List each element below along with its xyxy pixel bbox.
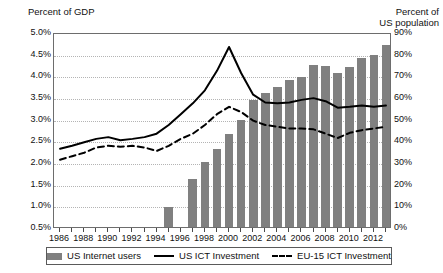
legend-swatch-solid-line-icon xyxy=(154,255,174,257)
right-axis-tick-label: 50% xyxy=(394,115,434,124)
x-axis-tick xyxy=(180,228,181,232)
x-axis-tick xyxy=(288,228,289,232)
legend-label: EU-15 ICT Investment xyxy=(297,251,391,261)
legend-item[interactable]: US ICT Investment xyxy=(154,251,259,261)
x-axis-tick xyxy=(300,228,301,232)
x-axis-tick xyxy=(264,228,265,232)
x-axis-tick xyxy=(156,228,157,232)
legend-label: US ICT Investment xyxy=(179,251,259,261)
left-axis-tick-label: 2.5% xyxy=(11,136,51,145)
x-axis xyxy=(53,228,391,229)
x-axis-tick xyxy=(361,228,362,232)
x-axis-tick xyxy=(313,228,314,232)
right-axis-tick-label: 20% xyxy=(394,180,434,189)
x-axis-tick xyxy=(385,228,386,232)
left-axis-tick-label: 5.0% xyxy=(11,28,51,37)
right-axis-tick-label: 60% xyxy=(394,93,434,102)
right-axis-tick-label: 70% xyxy=(394,71,434,80)
x-axis-tick xyxy=(71,228,72,232)
x-axis-tick xyxy=(168,228,169,232)
line-series-layer xyxy=(54,34,391,228)
chart-container: Percent of GDP Percent of US population … xyxy=(0,0,443,273)
left-axis-tick-label: 3.5% xyxy=(11,93,51,102)
x-axis-tick xyxy=(373,228,374,232)
left-axis-tick-label: 0.5% xyxy=(11,223,51,232)
x-axis-tick xyxy=(192,228,193,232)
line-us-ict-investment xyxy=(60,47,386,149)
x-axis-tick xyxy=(204,228,205,232)
plot-area xyxy=(53,33,391,228)
legend-item[interactable]: EU-15 ICT Investment xyxy=(272,251,391,261)
x-axis-tick xyxy=(95,228,96,232)
right-axis-tick-label: 40% xyxy=(394,136,434,145)
x-axis-tick xyxy=(107,228,108,232)
left-axis-tick-label: 4.5% xyxy=(11,50,51,59)
left-axis-tick-label: 4.0% xyxy=(11,71,51,80)
right-axis-tick-label: 0% xyxy=(394,223,434,232)
left-axis-tick-label: 1.5% xyxy=(11,180,51,189)
right-axis-tick-label: 90% xyxy=(394,28,434,37)
x-axis-tick xyxy=(325,228,326,232)
legend-swatch-dashed-line-icon xyxy=(272,255,292,257)
chart-legend: US Internet usersUS ICT InvestmentEU-15 … xyxy=(46,247,392,265)
right-axis-tick-label: 10% xyxy=(394,201,434,210)
x-axis-tick xyxy=(216,228,217,232)
right-axis-tick-label: 80% xyxy=(394,50,434,59)
right-axis-title: Percent of US population xyxy=(379,6,439,28)
x-axis-tick xyxy=(59,228,60,232)
x-axis-tick xyxy=(228,228,229,232)
x-axis-tick-label: 2012 xyxy=(356,233,390,243)
legend-item[interactable]: US Internet users xyxy=(47,251,141,261)
left-axis-tick-label: 3.0% xyxy=(11,115,51,124)
left-axis-tick-label: 1.0% xyxy=(11,201,51,210)
left-axis-title: Percent of GDP xyxy=(28,6,95,17)
left-axis-tick-label: 2.0% xyxy=(11,158,51,167)
x-axis-tick xyxy=(337,228,338,232)
x-axis-tick xyxy=(83,228,84,232)
x-axis-tick xyxy=(349,228,350,232)
legend-swatch-bar-swatch-icon xyxy=(47,253,62,260)
legend-label: US Internet users xyxy=(67,251,141,261)
x-axis-tick xyxy=(276,228,277,232)
x-axis-tick xyxy=(144,228,145,232)
right-axis-tick-label: 30% xyxy=(394,158,434,167)
x-axis-tick xyxy=(119,228,120,232)
x-axis-tick xyxy=(131,228,132,232)
x-axis-tick xyxy=(252,228,253,232)
x-axis-tick xyxy=(240,228,241,232)
line-eu15-ict-investment xyxy=(60,107,386,160)
